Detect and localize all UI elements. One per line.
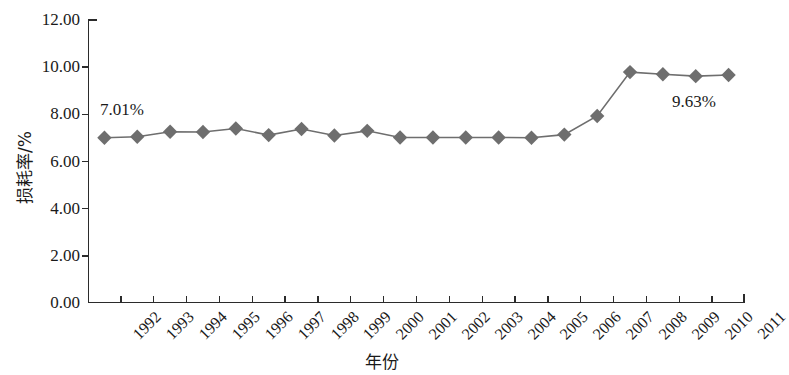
x-axis-tick-label: 2011 (754, 308, 789, 343)
y-axis-top-cap (88, 19, 97, 21)
x-axis-tick-label: 1999 (360, 308, 395, 343)
x-axis-tick-label: 1997 (294, 308, 329, 343)
x-axis-tick-mark (514, 296, 515, 303)
x-axis-tick-label: 1995 (228, 308, 263, 343)
y-axis-tick-label: 12.00 (14, 11, 80, 28)
x-axis-tick-label: 2008 (655, 308, 690, 343)
x-axis-tick-mark (284, 296, 285, 303)
x-axis-tick-mark (547, 296, 548, 303)
x-axis-tick-mark (383, 296, 384, 303)
x-axis-tick-label: 1996 (261, 308, 296, 343)
x-axis-tick-mark (449, 296, 450, 303)
y-axis-tick-mark (82, 114, 89, 116)
x-axis-tick-label: 2002 (458, 308, 493, 343)
y-axis-tick-label: 6.00 (14, 153, 80, 170)
x-axis-tick-label: 2007 (623, 308, 658, 343)
x-axis-tick-mark (153, 296, 154, 303)
x-axis-tick-label: 1993 (163, 308, 198, 343)
annotation-last-value: 9.63% (672, 92, 716, 112)
y-axis-tick-label: 10.00 (14, 58, 80, 75)
y-axis-tick-mark (82, 255, 89, 257)
x-axis-tick-mark (120, 296, 121, 303)
x-axis-right-cap (743, 294, 745, 303)
y-axis-tick-label: 2.00 (14, 247, 80, 264)
x-axis-tick-mark (416, 296, 417, 303)
x-axis-tick-label: 2009 (688, 308, 723, 343)
x-axis-tick-mark (679, 296, 680, 303)
x-axis-tick-mark (580, 296, 581, 303)
x-axis-tick-mark (350, 296, 351, 303)
x-axis-tick-mark (219, 296, 220, 303)
x-axis-tick-label: 2010 (721, 308, 756, 343)
x-axis-tick-label: 2004 (524, 308, 559, 343)
y-axis-tick-labels: 12.0010.008.006.004.002.000.00 (8, 0, 80, 375)
x-axis-tick-label: 1992 (130, 308, 165, 343)
x-axis-tick-mark (646, 296, 647, 303)
plot-area (88, 20, 745, 303)
y-axis-tick-label: 0.00 (14, 294, 80, 311)
annotation-first-value: 7.01% (100, 100, 144, 120)
y-axis-tick-mark (82, 161, 89, 163)
x-axis-tick-mark (482, 296, 483, 303)
x-axis-tick-label: 1994 (195, 308, 230, 343)
x-axis-tick-label: 1998 (327, 308, 362, 343)
y-axis-tick-mark (82, 208, 89, 210)
x-axis-tick-mark (186, 296, 187, 303)
x-axis-tick-mark (711, 296, 712, 303)
y-axis-tick-label: 8.00 (14, 105, 80, 122)
x-axis-tick-label: 2005 (557, 308, 592, 343)
x-axis-tick-label: 2000 (393, 308, 428, 343)
x-axis-tick-mark (613, 296, 614, 303)
x-axis-tick-mark (252, 296, 253, 303)
x-axis-tick-label: 2001 (425, 308, 460, 343)
y-axis-tick-label: 4.00 (14, 200, 80, 217)
x-axis-title: 年份 (0, 348, 763, 373)
y-axis-tick-mark (82, 66, 89, 68)
x-axis-tick-label: 2003 (491, 308, 526, 343)
x-axis-tick-mark (317, 296, 318, 303)
x-axis-tick-label: 2006 (590, 308, 625, 343)
